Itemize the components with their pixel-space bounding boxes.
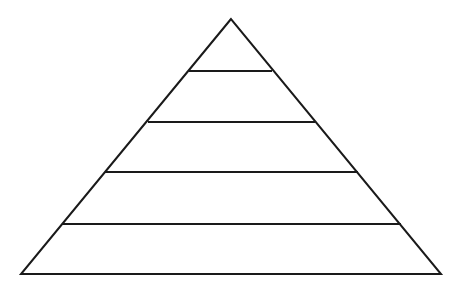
pyramid-svg bbox=[0, 0, 467, 296]
pyramid-diagram bbox=[0, 0, 467, 296]
pyramid-outline bbox=[21, 19, 441, 274]
pyramid-level-dividers bbox=[62, 71, 401, 224]
